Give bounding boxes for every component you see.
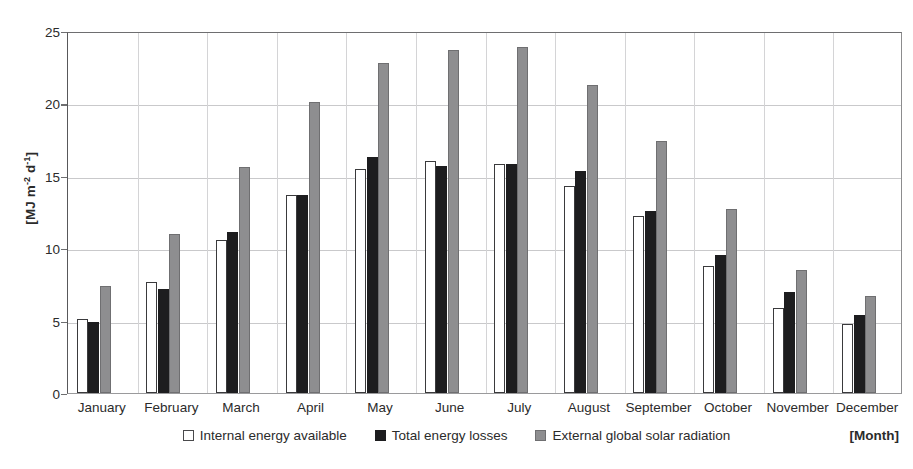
x-axis-tick-label: May xyxy=(367,400,393,415)
legend-item[interactable]: Internal energy available xyxy=(183,428,347,443)
legend-label: Internal energy available xyxy=(200,428,347,443)
x-axis-tick-label: March xyxy=(222,400,260,415)
bar xyxy=(425,161,436,393)
category-separator xyxy=(694,33,695,393)
y-axis-tick-label: 5 xyxy=(28,314,60,329)
x-axis-tick-label: October xyxy=(704,400,752,415)
x-axis-tick-label: September xyxy=(625,400,691,415)
x-axis-tick-label: November xyxy=(766,400,828,415)
bar xyxy=(796,270,807,393)
legend-item[interactable]: Total energy losses xyxy=(375,428,508,443)
category-separator xyxy=(277,33,278,393)
bar xyxy=(158,289,169,393)
legend-swatch-icon xyxy=(375,430,386,441)
category-separator xyxy=(416,33,417,393)
legend-label: External global solar radiation xyxy=(552,428,730,443)
bar xyxy=(517,47,528,393)
bar-chart: [MJ m-2 d-1] 0510152025 JanuaryFebruaryM… xyxy=(0,0,913,469)
category-separator xyxy=(833,33,834,393)
category-separator xyxy=(555,33,556,393)
x-axis-tick-label: June xyxy=(435,400,464,415)
y-axis-title: [MJ m-2 d-1] xyxy=(22,118,39,258)
y-axis-tick-label: 25 xyxy=(28,25,60,40)
legend-swatch-icon xyxy=(535,430,546,441)
bar xyxy=(633,216,644,393)
bar xyxy=(645,211,656,393)
bar xyxy=(865,296,876,393)
bar xyxy=(355,169,366,393)
bar xyxy=(297,195,308,393)
y-axis-tick-label: 20 xyxy=(28,97,60,112)
bar xyxy=(842,324,853,394)
y-axis-tick-label: 0 xyxy=(28,387,60,402)
bar-group xyxy=(625,33,695,393)
bar xyxy=(378,63,389,393)
bar xyxy=(227,232,238,393)
bar xyxy=(494,164,505,393)
bar xyxy=(448,50,459,393)
legend-swatch-icon xyxy=(183,430,194,441)
bar xyxy=(587,85,598,393)
bar-group xyxy=(346,33,416,393)
bar-group xyxy=(833,33,903,393)
x-axis-tick-label: April xyxy=(297,400,324,415)
bar xyxy=(286,195,297,393)
bar-group xyxy=(277,33,347,393)
bar xyxy=(309,102,320,393)
chart-legend: Internal energy availableTotal energy lo… xyxy=(0,428,913,443)
bar xyxy=(726,209,737,393)
bar-group xyxy=(694,33,764,393)
x-axis-tick-label: February xyxy=(144,400,198,415)
bar xyxy=(854,315,865,393)
bar xyxy=(239,167,250,393)
bar xyxy=(169,234,180,393)
category-separator xyxy=(625,33,626,393)
x-axis-tick-label: July xyxy=(507,400,531,415)
category-separator xyxy=(486,33,487,393)
bar xyxy=(367,157,378,393)
y-axis-tick-label: 10 xyxy=(28,242,60,257)
category-separator xyxy=(764,33,765,393)
bar-group xyxy=(207,33,277,393)
bar-group xyxy=(555,33,625,393)
bar xyxy=(703,266,714,393)
bar xyxy=(715,255,726,393)
x-axis-tick-label: December xyxy=(836,400,898,415)
bar xyxy=(146,282,157,393)
x-axis-title: [Month] xyxy=(850,428,899,443)
bar xyxy=(784,292,795,393)
legend-item[interactable]: External global solar radiation xyxy=(535,428,730,443)
bar xyxy=(575,171,586,393)
bar xyxy=(506,164,517,393)
category-separator xyxy=(138,33,139,393)
bar xyxy=(216,240,227,393)
bar xyxy=(100,286,111,393)
y-axis-tick-mark xyxy=(61,394,67,395)
bar xyxy=(77,319,88,393)
bar xyxy=(656,141,667,393)
bar xyxy=(436,166,447,393)
y-axis-tick-label: 15 xyxy=(28,169,60,184)
bar xyxy=(773,308,784,393)
bar-group xyxy=(486,33,556,393)
legend-label: Total energy losses xyxy=(392,428,508,443)
bar xyxy=(88,322,99,393)
bar-group xyxy=(764,33,834,393)
category-separator xyxy=(207,33,208,393)
bar xyxy=(564,186,575,393)
plot-area xyxy=(67,32,902,394)
x-axis-tick-label: August xyxy=(568,400,610,415)
x-axis-tick-label: January xyxy=(78,400,126,415)
bar-group xyxy=(68,33,138,393)
bar-group xyxy=(138,33,208,393)
category-separator xyxy=(346,33,347,393)
bar-group xyxy=(416,33,486,393)
